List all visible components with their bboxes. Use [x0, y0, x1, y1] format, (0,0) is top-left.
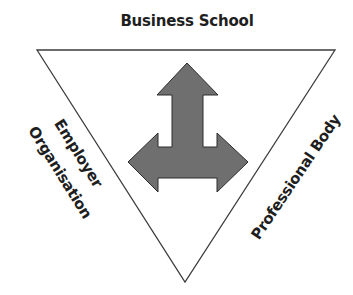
three-way-arrow-icon — [128, 63, 248, 192]
business-school-label: Business School — [0, 12, 353, 30]
